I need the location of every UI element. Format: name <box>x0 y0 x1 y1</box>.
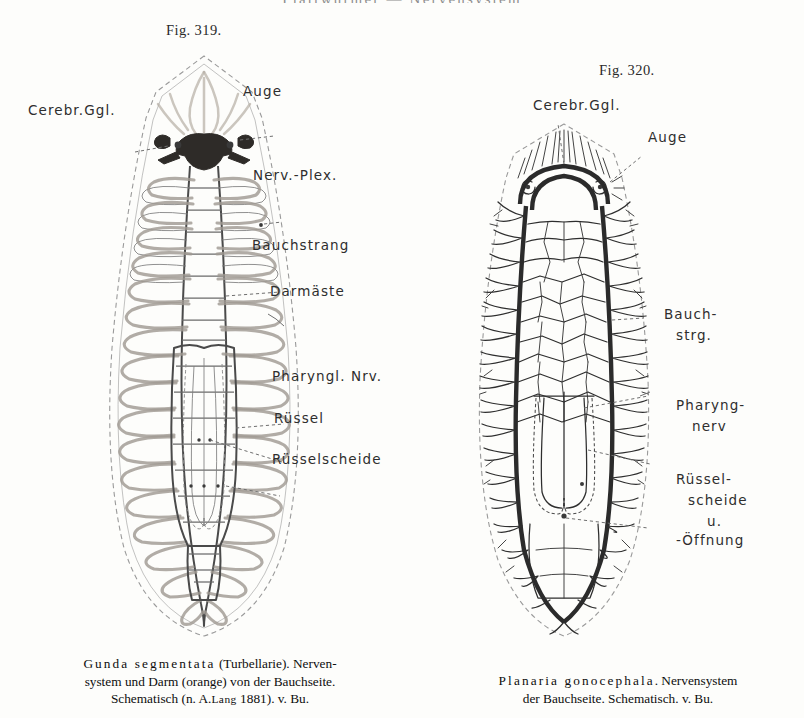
label-bauchstrg-line1-320: Bauch- <box>664 307 718 322</box>
figure-319-drawing <box>18 48 418 648</box>
eye-spot-left <box>175 142 182 149</box>
leader-auge-320 <box>610 156 642 182</box>
caption-species-319: Gunda segmentata <box>83 656 215 671</box>
figure-number-320: Fig. 320. <box>599 62 655 79</box>
label-cerebr-ggl-319: Cerebr.Ggl. <box>28 103 116 118</box>
label-ruesselscheide-319: Rüsselscheide <box>272 452 382 467</box>
figure-number-319: Fig. 319. <box>166 22 222 39</box>
label-auge-320: Auge <box>648 130 687 145</box>
caption-species-320: Planaria gonocephala <box>499 673 655 688</box>
brain-inner-320 <box>532 176 596 210</box>
label-bauchstrg-line2-320: strg. <box>676 328 712 343</box>
illustration-page: Plattwürmer — Nervensystem Fig. 319. <box>0 0 804 718</box>
label-oeffnung-320: -Öffnung <box>676 533 744 548</box>
leader-bauchstrg-320 <box>612 318 644 320</box>
label-cerebr-ggl-320: Cerebr.Ggl. <box>533 98 621 113</box>
nerve-plexus-319 <box>130 186 278 282</box>
head-bristles-320 <box>518 130 610 178</box>
caption-author-initial-319: A. <box>198 691 211 706</box>
caption-line1-rest-320: . Nervensystem <box>655 673 738 688</box>
proboscis-sheath-320 <box>533 398 564 514</box>
label-darmaeste-319: Darmäste <box>270 284 345 299</box>
label-nerv-plex-319: Nerv.-Plex. <box>253 168 337 183</box>
label-ruesselscheide-line2-320: scheide <box>688 493 748 508</box>
pharynx-apparatus-320 <box>529 392 599 598</box>
caption-figure-320: Planaria gonocephala. Nervensystem der B… <box>436 672 800 707</box>
label-pharyngl-nrv-319: Pharyngl. Nrv. <box>272 369 382 384</box>
label-bauchstrang-319: Bauchstrang <box>252 238 349 253</box>
figure-320-drawing <box>436 120 696 650</box>
caption-author-319: Lang <box>211 693 236 705</box>
caption-line2-319: system und Darm (orange) von der Bauchse… <box>8 673 412 691</box>
leader-ruesselscheide-320 <box>588 450 650 464</box>
caption-line1-rest-319: (Turbellarie). Nerven- <box>216 656 337 671</box>
label-pharyngnerv-line1-320: Pharyng- <box>676 398 745 413</box>
caption-figure-319: Gunda segmentata (Turbellarie). Nerven- … <box>8 655 412 708</box>
caption-line2-320: der Bauchseite. Schematisch. v. Bu. <box>436 690 800 708</box>
label-ruesselscheide-line3-320: u. <box>707 514 722 529</box>
label-ruesselscheide-line1-320: Rüssel- <box>676 472 732 487</box>
eye-spot-right <box>227 142 234 149</box>
label-auge-319: Auge <box>243 84 282 99</box>
caption-line3a-319: Schematisch (n. <box>111 691 199 706</box>
cerebral-ganglion-319 <box>154 134 253 170</box>
proboscis-opening-320 <box>561 513 566 518</box>
caption-line3b-319: 1881). v. Bu. <box>237 691 309 706</box>
label-pharyngnerv-line2-320: nerv <box>692 419 727 434</box>
label-ruessel-319: Rüssel <box>274 411 324 426</box>
running-head: Plattwürmer — Nervensystem <box>0 0 804 3</box>
head-structures-319 <box>158 72 250 134</box>
